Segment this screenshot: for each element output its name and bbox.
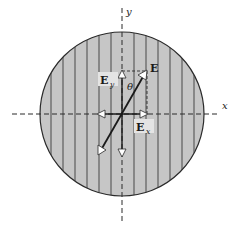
label-e: E bbox=[150, 62, 158, 75]
x-axis-label: x bbox=[222, 100, 228, 111]
theta-label: θ bbox=[127, 81, 133, 92]
y-axis-label: y bbox=[125, 6, 132, 17]
svg-text:E: E bbox=[100, 74, 108, 87]
svg-text:E: E bbox=[150, 62, 158, 75]
svg-text:y: y bbox=[109, 80, 115, 89]
svg-text:E: E bbox=[136, 121, 144, 134]
polarizer-diagram: x y E E y E x θ bbox=[0, 0, 236, 228]
